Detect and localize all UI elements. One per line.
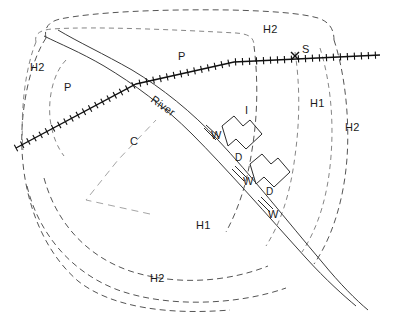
contour-bottom-h2-outer xyxy=(27,186,286,302)
label-s-station: S xyxy=(302,44,310,55)
railway-tie xyxy=(153,77,155,84)
river-layer xyxy=(44,30,368,310)
label-p-left: P xyxy=(64,82,72,93)
railway-tie xyxy=(139,80,141,87)
label-w-lower: W xyxy=(268,209,279,220)
contour-left-outer xyxy=(22,38,230,311)
basin-lower-d xyxy=(250,154,290,187)
contour-left-inner-p xyxy=(50,60,66,156)
railway-tie xyxy=(214,63,216,70)
map-canvas xyxy=(0,0,413,321)
railway-tie xyxy=(207,64,209,71)
railway-tie xyxy=(166,73,168,80)
contour-left-mid xyxy=(22,42,36,150)
label-d-upper: D xyxy=(235,153,242,163)
field-boundary-layer xyxy=(86,120,156,214)
label-h2-left: H2 xyxy=(30,62,44,73)
label-h1-right: H1 xyxy=(310,98,324,109)
railway-tie xyxy=(221,61,223,68)
contour-right-mid xyxy=(302,48,332,252)
field-boundary-polygon xyxy=(86,120,156,214)
label-w-upper: W xyxy=(211,130,222,141)
label-d-lower: D xyxy=(266,187,273,197)
label-p-upper: P xyxy=(178,51,186,62)
label-w-middle: W xyxy=(243,176,254,187)
railway-tie xyxy=(187,69,189,76)
river-bank-left xyxy=(44,36,356,306)
contour-outer-h2 xyxy=(46,10,334,40)
contour-bottom-h1 xyxy=(44,178,268,280)
hydrological-catchment-map: H2PSH2PRiverIH1H2CWDWDWH1H2 xyxy=(0,0,413,321)
railway-tie xyxy=(180,70,182,77)
label-h2-right: H2 xyxy=(345,122,359,133)
railway-tie xyxy=(194,67,196,74)
contour-right-i-edge xyxy=(226,46,257,232)
contour-right-h2-outer xyxy=(314,40,348,264)
label-c-channel: C xyxy=(130,136,138,147)
label-i-interfluve: I xyxy=(245,105,248,116)
railway-tie xyxy=(228,60,230,67)
contour-upper-inner-h2 xyxy=(36,28,254,46)
label-h2-top: H2 xyxy=(263,24,277,35)
label-h1-bottom: H1 xyxy=(196,220,210,231)
railway-tie xyxy=(173,72,175,79)
railway-tie xyxy=(201,66,203,73)
river-bank-right xyxy=(58,30,368,310)
label-h2-bottom: H2 xyxy=(150,273,164,284)
railway-tie xyxy=(160,75,162,82)
